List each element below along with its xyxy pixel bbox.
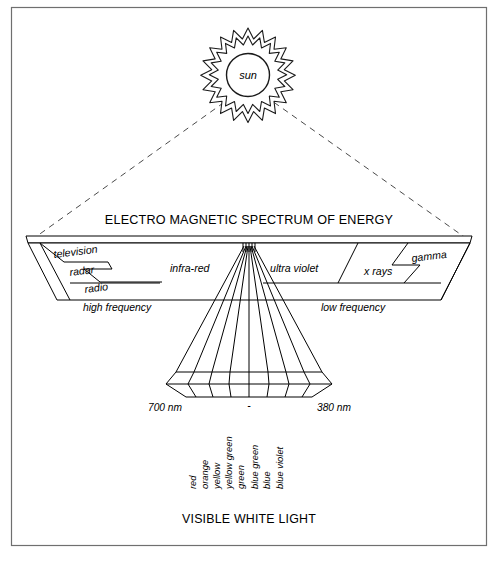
fan-base-conn-6 xyxy=(286,372,289,384)
diagram-caption: VISIBLE WHITE LIGHT xyxy=(182,512,316,526)
diagram-title: ELECTRO MAGNETIC SPECTRUM OF ENERGY xyxy=(105,213,394,227)
color-label-orange: orange xyxy=(199,460,210,489)
fan-base-conn-1 xyxy=(188,372,194,384)
fan-lower-left xyxy=(166,384,186,397)
band-label-infrared: infra-red xyxy=(170,262,211,274)
label-low-frequency: low frequency xyxy=(321,302,386,313)
band-label-xrays: x rays xyxy=(363,265,393,277)
fan-base-conn-3 xyxy=(229,372,230,384)
fan-tip-conn-6 xyxy=(285,384,289,397)
fan-tip-conn-2 xyxy=(209,384,213,397)
fan-base-conn-7 xyxy=(304,372,310,384)
fan-base-conn-5 xyxy=(268,372,269,384)
sun-label: sun xyxy=(239,69,257,81)
fan-lower-right xyxy=(312,384,332,397)
diagram-canvas: sun ELECTRO MAGNETIC SPECTRUM OF ENERGY xyxy=(0,0,498,565)
electromagnetic-spectrum-diagram: sun ELECTRO MAGNETIC SPECTRUM OF ENERGY xyxy=(0,0,498,565)
fan-tip-conn-3 xyxy=(229,384,231,397)
color-label-yellow: yellow xyxy=(211,462,222,490)
fan-flare-left xyxy=(166,372,176,384)
wavelength-label-380nm: 380 nm xyxy=(317,402,351,413)
wavelength-label-center: - xyxy=(247,400,251,411)
sun-graphic: sun xyxy=(201,28,296,123)
spectrum-bar-top-edge xyxy=(26,236,472,243)
fan-tip-conn-7 xyxy=(302,384,310,397)
visible-color-labels: red orange yellow yellow green green blu… xyxy=(187,436,285,490)
color-label-green: green xyxy=(235,465,246,489)
color-label-red: red xyxy=(187,475,198,489)
color-label-blue-violet: blue violet xyxy=(274,446,285,489)
label-high-frequency: high frequency xyxy=(83,302,152,313)
fan-tip-conn-1 xyxy=(188,384,196,397)
color-label-blue: blue xyxy=(261,471,272,489)
wavelength-label-700nm: 700 nm xyxy=(148,402,182,413)
band-label-ultraviolet: ultra violet xyxy=(270,262,319,274)
fan-tip-conn-5 xyxy=(267,384,269,397)
color-label-yellow-green: yellow green xyxy=(223,436,234,490)
color-label-blue-green: blue green xyxy=(249,445,260,489)
fan-base-conn-2 xyxy=(209,372,212,384)
fan-flare-right xyxy=(322,372,332,384)
